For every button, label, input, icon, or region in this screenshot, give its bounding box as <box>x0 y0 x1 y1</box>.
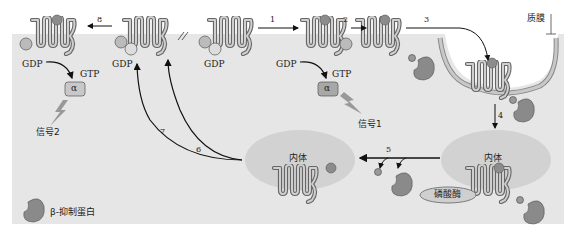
phosphatase-label: 磷酸酶 <box>434 190 461 199</box>
membrane-label: 质膜 <box>527 14 545 23</box>
step-3-label: 3 <box>424 16 429 24</box>
step-8-label: 8 <box>97 16 102 24</box>
step-1-label: 1 <box>270 16 275 24</box>
step-7-label: 7 <box>160 128 165 136</box>
gdp-label: GDP <box>204 60 224 69</box>
step-6-label: 6 <box>196 146 201 154</box>
gdp-label: GDP <box>112 60 132 69</box>
gtp-label: GTP <box>80 70 99 79</box>
gdp-label: GDP <box>276 60 296 69</box>
gpcr-cycle-diagram: 8 1 2 3 4 5 6 7 质膜 GDP GTP GDP GDP GDP G… <box>0 0 564 242</box>
endosome-label: 内体 <box>289 154 307 163</box>
signal2-label: 信号2 <box>36 128 60 137</box>
diagram-canvas <box>0 0 564 242</box>
alpha-subunit-label: α <box>324 84 330 93</box>
legend-arrestin-label: β-抑制蛋白 <box>50 208 95 217</box>
alpha-subunit-label: α <box>71 84 77 93</box>
signal1-label: 信号1 <box>358 120 382 129</box>
gtp-label: GTP <box>332 70 351 79</box>
endosome-label: 内体 <box>484 154 502 163</box>
step-2-label: 2 <box>343 16 348 24</box>
step-4-label: 4 <box>498 112 503 120</box>
gdp-label: GDP <box>22 60 42 69</box>
step-5-label: 5 <box>386 146 391 154</box>
